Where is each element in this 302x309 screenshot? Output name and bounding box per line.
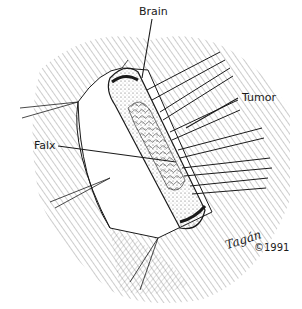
tumor-label: Tumor: [242, 92, 276, 103]
copyright-notice: ©1991: [254, 242, 289, 253]
falx-label: Falx: [34, 140, 56, 151]
brain-label: Brain: [139, 6, 168, 17]
surgical-illustration: [0, 0, 302, 309]
